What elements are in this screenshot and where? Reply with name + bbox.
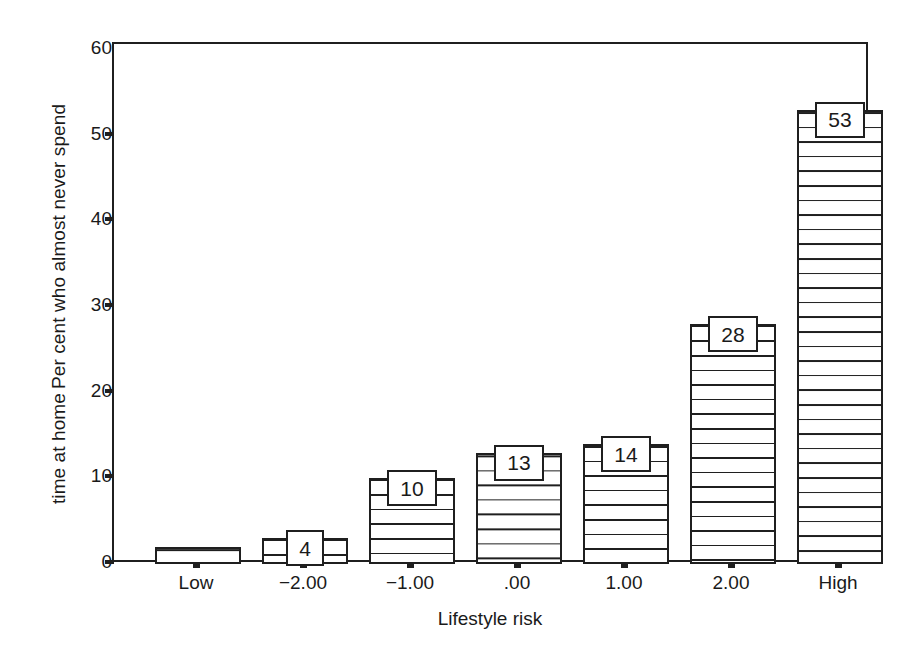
x-axis-tick-label: 1.00	[564, 572, 684, 594]
bar-value-label: 10	[387, 470, 437, 506]
x-axis-tick-label: −1.00	[350, 572, 470, 594]
y-axis-tick-label: 60	[66, 38, 112, 57]
bar-value-label: 4	[286, 530, 324, 566]
bar	[797, 110, 883, 564]
x-axis-tick-mark	[193, 562, 200, 568]
bar-value-label: 53	[815, 102, 865, 138]
x-axis-tick-label: Low	[136, 572, 256, 594]
x-axis-tick-label: −2.00	[243, 572, 363, 594]
bar-chart-figure: Per cent who almost never spend time at …	[0, 0, 908, 662]
x-axis-tick-mark	[407, 562, 414, 568]
bar-value-label: 13	[494, 445, 544, 481]
bar-value-label: 14	[601, 436, 651, 472]
bar-value-label: 28	[708, 316, 758, 352]
plot-area	[112, 42, 868, 562]
x-axis-tick-label: 2.00	[671, 572, 791, 594]
x-axis-tick-label: .00	[457, 572, 577, 594]
bar	[690, 324, 776, 564]
x-axis-title: Lifestyle risk	[112, 608, 868, 630]
x-axis-tick-mark	[514, 562, 521, 568]
x-axis-tick-mark	[728, 562, 735, 568]
y-axis-ticks: 0102030405060	[48, 0, 112, 662]
x-axis-tick-mark	[621, 562, 628, 568]
x-axis-tick-mark	[835, 562, 842, 568]
x-axis-tick-label: High	[778, 572, 898, 594]
